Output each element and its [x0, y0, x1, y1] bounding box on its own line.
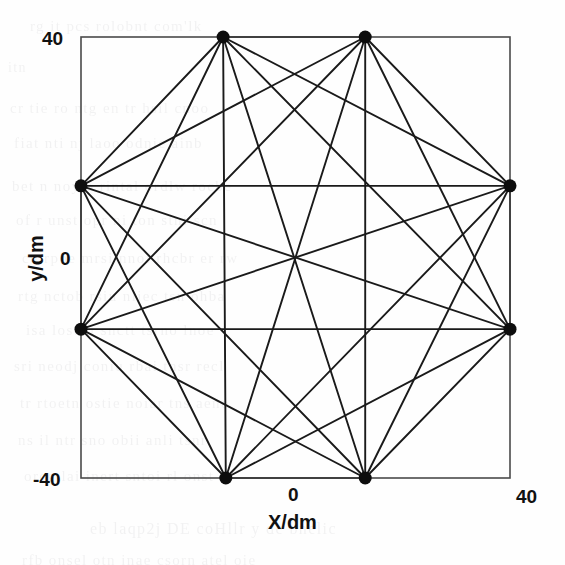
network-edge: [81, 329, 365, 478]
network-node: N7: [75, 323, 88, 336]
network-node: N5: [359, 472, 372, 485]
figure-root: rg it pcs rolobnt com'lkitncr tie ro ntg…: [0, 0, 565, 565]
y-axis-tick-0: 0: [60, 248, 71, 270]
x-axis-tick-0: 0: [288, 484, 299, 506]
y-axis-title: y/dm: [25, 226, 48, 292]
network-node: N4: [504, 323, 517, 336]
x-axis-tick-40: 40: [516, 486, 537, 508]
network-node: N1: [217, 31, 230, 44]
network-plot-svg: N1N2N3N4N5N6N7N8: [0, 0, 565, 565]
x-axis-title: X/dm: [268, 511, 317, 534]
network-node: N8: [75, 179, 88, 192]
network-edge: [365, 329, 510, 478]
y-axis-tick-40: 40: [42, 28, 63, 50]
network-edge: [81, 37, 223, 186]
network-edge: [223, 37, 510, 329]
network-edge: [365, 37, 510, 186]
network-node: N3: [504, 179, 517, 192]
edges-group: [81, 37, 510, 478]
network-edge: [365, 37, 510, 329]
network-edge: [223, 37, 510, 186]
y-axis-tick-neg40: -40: [33, 469, 60, 491]
network-edge: [81, 37, 223, 329]
network-node: N2: [359, 31, 372, 44]
network-edge: [81, 186, 365, 478]
network-node: N6: [219, 472, 232, 485]
network-edge: [365, 186, 510, 478]
network-edge: [81, 329, 226, 478]
network-edge: [226, 329, 510, 478]
network-edge: [81, 186, 226, 478]
network-edge: [223, 37, 226, 478]
network-edge: [226, 186, 510, 478]
